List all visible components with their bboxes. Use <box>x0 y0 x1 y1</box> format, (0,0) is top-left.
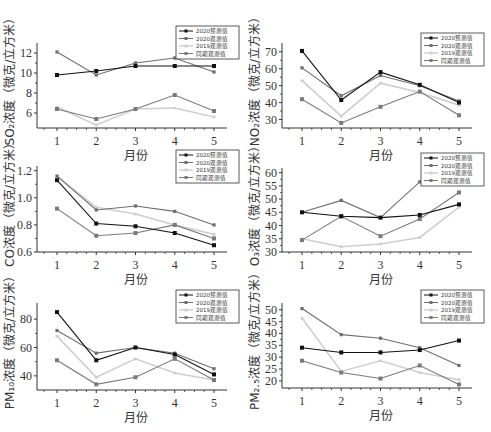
y-tick-label: 0.8 <box>17 218 32 232</box>
legend-marker-icon <box>430 44 433 47</box>
data-point-circle-icon <box>55 50 58 53</box>
legend-marker-icon <box>430 294 433 297</box>
y-tick-label: 40 <box>265 219 277 233</box>
data-point-cross-icon <box>134 212 137 215</box>
legend-marker-icon <box>430 59 433 62</box>
legend-label: 2020观测值 <box>196 159 228 167</box>
data-point-square-icon <box>55 178 59 182</box>
x-tick-label: 3 <box>133 258 139 272</box>
data-point-circle-icon <box>340 94 343 97</box>
legend-marker-icon <box>430 301 433 304</box>
data-point-square-icon <box>457 190 461 194</box>
data-point-square-icon <box>339 350 343 354</box>
data-point-circle-icon <box>95 208 98 211</box>
x-tick-label: 2 <box>338 258 344 272</box>
data-point-square-icon <box>339 121 343 125</box>
data-point-square-icon <box>134 224 138 228</box>
chart-no2: 304050607012345月份NO₂浓度（微克/立方米）2020预测值202… <box>245 0 490 140</box>
data-point-square-icon <box>94 234 98 238</box>
series-3 <box>300 90 461 125</box>
legend-label: 2020观测值 <box>441 299 473 307</box>
data-point-circle-icon <box>134 204 137 207</box>
data-point-circle-icon <box>340 199 343 202</box>
chart-pm10: 40608012345月份PM₁₀浓度（微克/立方米）2020预测值2020观测… <box>0 280 245 420</box>
x-tick-label: 1 <box>54 396 60 410</box>
legend-marker-icon <box>185 37 188 40</box>
data-point-cross-icon <box>340 245 343 248</box>
data-point-square-icon <box>300 97 304 101</box>
y-tick-label: 30 <box>265 245 277 259</box>
data-point-square-icon <box>418 90 422 94</box>
data-point-cross-icon <box>300 316 303 319</box>
data-point-square-icon <box>173 357 177 361</box>
data-point-circle-icon <box>95 352 98 355</box>
y-tick-label: 6 <box>26 106 32 120</box>
x-tick-label: 5 <box>456 258 462 272</box>
legend-marker-icon <box>185 301 188 304</box>
legend-marker-icon <box>185 309 188 312</box>
data-point-cross-icon <box>418 236 421 239</box>
data-point-circle-icon <box>212 367 215 370</box>
legend-label: 2019观测值 <box>196 306 228 314</box>
data-point-square-icon <box>134 107 138 111</box>
x-tick-label: 3 <box>378 394 384 408</box>
data-point-square-icon <box>300 238 304 242</box>
legend-marker-icon <box>185 316 188 319</box>
data-point-square-icon <box>55 107 59 111</box>
data-point-square-icon <box>94 358 98 362</box>
legend-marker-icon <box>430 309 433 312</box>
data-point-square-icon <box>379 234 383 238</box>
data-point-cross-icon <box>418 371 421 374</box>
x-tick-label: 1 <box>54 258 60 272</box>
data-point-square-icon <box>339 371 343 375</box>
data-point-square-icon <box>457 113 461 117</box>
data-point-cross-icon <box>379 359 382 362</box>
data-point-circle-icon <box>340 333 343 336</box>
legend: 2020预测值2020观测值2019观测值同期观测值 <box>421 290 484 323</box>
series-0 <box>300 202 461 219</box>
legend-marker-icon <box>185 52 188 55</box>
data-point-square-icon <box>173 93 177 97</box>
data-point-square-icon <box>55 358 59 362</box>
y-tick-label: 40 <box>20 369 32 383</box>
legend-marker-icon <box>185 161 188 164</box>
data-point-square-icon <box>379 377 383 381</box>
data-point-square-icon <box>212 378 216 382</box>
data-point-square-icon <box>212 64 216 68</box>
data-point-square-icon <box>94 117 98 121</box>
data-point-square-icon <box>418 83 422 87</box>
data-point-square-icon <box>212 243 216 247</box>
data-point-square-icon <box>212 372 216 376</box>
data-point-circle-icon <box>55 329 58 332</box>
data-point-square-icon <box>379 70 383 74</box>
legend: 2020预测值2020观测值2019观测值同期观测值 <box>421 153 484 186</box>
data-point-square-icon <box>212 236 216 240</box>
legend-label: 2020预测值 <box>196 27 228 35</box>
y-tick-label: 55 <box>265 179 277 193</box>
data-point-square-icon <box>55 207 59 211</box>
data-point-square-icon <box>339 98 343 102</box>
chart-so2: 68101212345月份SO₂浓度（微克/立方米）2020预测值2020观测值… <box>0 0 245 140</box>
series-1 <box>55 329 215 370</box>
legend-label: 2020预测值 <box>196 151 228 159</box>
x-tick-label: 2 <box>93 396 99 410</box>
data-point-square-icon <box>418 348 422 352</box>
y-tick-label: 45 <box>265 205 277 219</box>
y-tick-label: 70 <box>265 45 277 59</box>
y-tick-label: 30 <box>265 113 277 127</box>
legend-marker-icon <box>185 294 188 297</box>
y-tick-label: 35 <box>265 232 277 246</box>
legend-label: 2020预测值 <box>441 34 473 42</box>
data-point-circle-icon <box>300 307 303 310</box>
y-axis-title: PM₁₀浓度（微克/立方米） <box>2 270 17 409</box>
x-tick-label: 2 <box>338 394 344 408</box>
chart-o3: 3035404550556012345月份O₃浓度（微克/立方米）2020预测值… <box>245 140 490 280</box>
legend-label: 2019观测值 <box>441 169 473 177</box>
legend-marker-icon <box>430 164 433 167</box>
legend-label: 2020预测值 <box>441 291 473 299</box>
legend-label: 2020观测值 <box>196 299 228 307</box>
y-tick-label: 8 <box>26 86 32 100</box>
legend-marker-icon <box>430 316 433 319</box>
x-tick-label: 1 <box>299 258 305 272</box>
legend-marker-icon <box>430 179 433 182</box>
